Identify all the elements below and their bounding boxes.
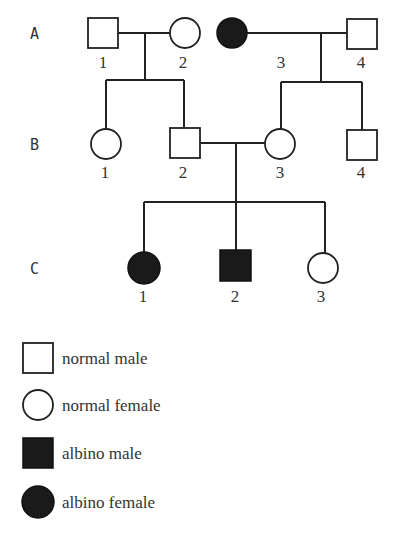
generation-label-a: A [30,25,39,43]
open-square-icon [23,343,53,373]
legend-label: normal female [62,396,161,415]
legend-item-normal-male: normal male [23,343,147,373]
individual-b4: 4 [347,130,377,182]
individual-b1: 1 [91,129,121,182]
legend-label: albino female [62,493,155,512]
individual-a3: 3 [217,18,285,72]
legend-item-albino-female: albino female [22,486,155,518]
individual-number: 4 [357,163,366,182]
male-symbol [347,19,377,49]
albino-male-symbol [220,250,251,281]
filled-square-icon [23,438,53,468]
individual-number: 1 [101,163,110,182]
individual-a2: 2 [170,18,200,72]
male-symbol [347,130,377,160]
female-symbol [170,18,200,48]
female-symbol [308,253,338,283]
individual-number: 1 [139,287,148,306]
female-symbol [265,129,295,159]
individual-number: 1 [99,53,108,72]
individual-number: 2 [179,163,188,182]
albino-female-symbol [217,18,247,48]
legend-label: normal male [62,349,147,368]
individual-number: 2 [179,53,188,72]
male-symbol [88,18,118,48]
connector-lines [106,33,362,253]
female-symbol [91,129,121,159]
legend: normal male normal female albino male al… [22,343,161,518]
individual-number: 3 [277,53,286,72]
individual-number: 4 [357,53,366,72]
albino-female-symbol [128,252,160,284]
filled-circle-icon [22,486,54,518]
individual-c1: 1 [128,252,160,306]
individual-a1: 1 [88,18,118,72]
legend-label: albino male [62,444,142,463]
male-symbol [170,128,200,158]
pedigree-diagram: A B C 1 2 3 4 1 [0,0,399,546]
individual-b3: 3 [265,129,295,182]
legend-item-albino-male: albino male [23,438,142,468]
individual-c2: 2 [220,250,251,306]
individual-a4: 4 [347,19,377,72]
open-circle-icon [23,390,53,420]
individual-number: 3 [317,287,326,306]
individual-b2: 2 [170,128,200,182]
individual-number: 2 [231,287,240,306]
generation-label-c: C [30,260,39,278]
individual-c3: 3 [308,253,338,306]
legend-item-normal-female: normal female [23,390,161,420]
individual-number: 3 [276,163,285,182]
generation-label-b: B [30,136,39,154]
